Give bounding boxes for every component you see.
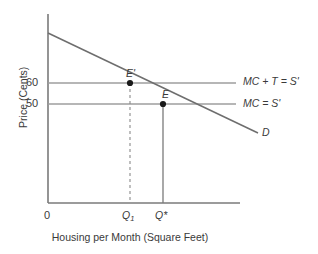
y-tick-label-60: 60 [26, 77, 38, 88]
x-tick-label-origin: 0 [44, 210, 50, 221]
curve-label-supply-mc: MC = S' [243, 98, 280, 109]
x-tick-label-q1: Q1 [122, 210, 134, 223]
point-label-e: E [162, 89, 169, 100]
x-tick-label-qstar: Q* [155, 210, 167, 221]
y-tick-label-50: 50 [26, 98, 38, 109]
point-label-e-prime: E' [126, 68, 135, 79]
q1-subscript: 1 [130, 214, 134, 223]
economics-supply-demand-chart: Price (Cents) Housing per Month (Square … [0, 0, 318, 254]
qstar-letter: Q [155, 209, 163, 221]
qstar-superscript: * [163, 209, 167, 221]
curve-label-demand: D [262, 127, 270, 138]
q1-letter: Q [122, 209, 130, 221]
equilibrium-marker-e-prime [127, 80, 133, 86]
equilibrium-marker-e [160, 101, 166, 107]
curve-label-supply-with-tax: MC + T = S' [243, 76, 299, 87]
x-axis-title: Housing per Month (Square Feet) [0, 232, 260, 243]
